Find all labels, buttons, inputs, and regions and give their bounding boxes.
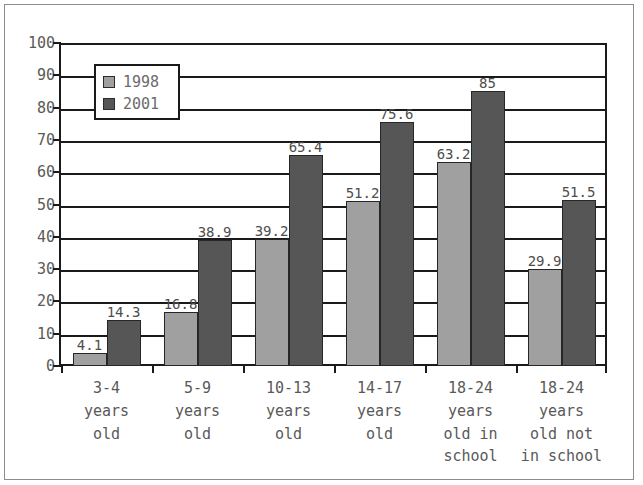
x-axis-category-labels: 3-4 years old5-9 years old10-13 years ol… (61, 377, 607, 477)
x-axis-tick-mark (516, 366, 518, 373)
bar-value-label: 29.9 (528, 254, 562, 268)
legend-label-1998: 1998 (123, 75, 159, 90)
bar-1998-6[interactable]: 29.9 (528, 269, 562, 366)
bar-value-label: 85 (479, 76, 496, 90)
bar-value-label: 14.3 (107, 305, 141, 319)
bar-group: 51.275.6 (334, 43, 425, 366)
bar-group: 39.265.4 (243, 43, 334, 366)
bar-2001-5[interactable]: 85 (471, 91, 505, 366)
x-axis-category-label-6: 18-24 years old not in school (516, 377, 607, 477)
bar-2001-4[interactable]: 75.6 (380, 122, 414, 366)
x-axis-tick-mark (61, 366, 63, 373)
bar-value-label: 39.2 (255, 224, 289, 238)
legend-swatch-2001-icon (103, 98, 115, 110)
bar-1998-3[interactable]: 39.2 (255, 239, 289, 366)
bar-value-label: 65.4 (289, 140, 323, 154)
x-axis-tick-mark (334, 366, 336, 373)
x-axis-tick-mark (152, 366, 154, 373)
bar-2001-6[interactable]: 51.5 (562, 200, 596, 366)
legend-item-1998: 1998 (103, 71, 178, 93)
legend-label-2001: 2001 (123, 97, 159, 112)
x-axis-category-label-4: 14-17 years old (334, 377, 425, 477)
bar-value-label: 51.5 (562, 185, 596, 199)
legend-item-2001: 2001 (103, 93, 178, 115)
x-axis-tick-mark (605, 366, 607, 373)
x-axis-category-label-1: 3-4 years old (61, 377, 152, 477)
bar-value-label: 75.6 (380, 107, 414, 121)
x-axis-category-label-3: 10-13 years old (243, 377, 334, 477)
bar-2001-1[interactable]: 14.3 (107, 320, 141, 366)
bar-value-label: 16.8 (164, 297, 198, 311)
x-axis-tick-mark (243, 366, 245, 373)
chart-legend: 1998 2001 (94, 64, 180, 120)
bar-value-label: 51.2 (346, 186, 380, 200)
legend-swatch-1998-icon (103, 76, 115, 88)
bar-value-label: 38.9 (198, 225, 232, 239)
x-axis-category-label-2: 5-9 years old (152, 377, 243, 477)
x-axis-tick-marks (61, 366, 607, 374)
figure-frame: 0102030405060708090100 4.114.316.838.939… (4, 4, 634, 480)
bar-group: 29.951.5 (516, 43, 607, 366)
x-axis-tick-mark (425, 366, 427, 373)
bar-1998-5[interactable]: 63.2 (437, 162, 471, 366)
bar-group: 63.285 (425, 43, 516, 366)
bar-1998-2[interactable]: 16.8 (164, 312, 198, 366)
bar-2001-3[interactable]: 65.4 (289, 155, 323, 366)
bar-2001-2[interactable]: 38.9 (198, 240, 232, 366)
bar-1998-1[interactable]: 4.1 (73, 353, 107, 366)
bar-value-label: 63.2 (437, 147, 471, 161)
y-axis-tick-marks (5, 43, 65, 366)
x-axis-category-label-5: 18-24 years old in school (425, 377, 516, 477)
bar-1998-4[interactable]: 51.2 (346, 201, 380, 366)
bar-value-label: 4.1 (77, 338, 102, 352)
